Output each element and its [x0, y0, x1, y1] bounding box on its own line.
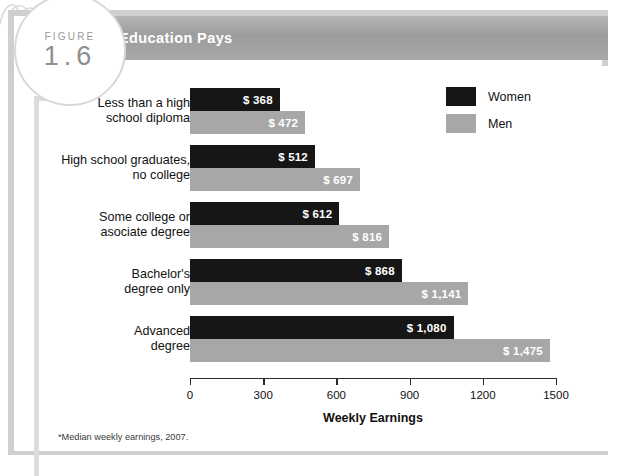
- x-axis-tick-label: 300: [254, 389, 273, 401]
- bar-women: $ 512: [190, 145, 315, 168]
- x-axis-tick-label: 900: [400, 389, 419, 401]
- bar-row: Some college or asociate degree$ 612$ 81…: [14, 202, 608, 248]
- x-axis-tick-label: 1200: [470, 389, 496, 401]
- category-label: Advanced degree: [0, 324, 190, 354]
- bar-women: $ 612: [190, 202, 339, 225]
- x-axis-tick-label: 600: [327, 389, 346, 401]
- x-axis-tick: [410, 378, 411, 385]
- figure-title: Education Pays: [119, 30, 233, 46]
- bar-row: Advanced degree$ 1,080$ 1,475: [14, 316, 608, 362]
- x-axis-tick-label: 0: [187, 389, 193, 401]
- chart-area: Women Men Less than a high school diplom…: [14, 66, 608, 451]
- figure-number: 1.6: [44, 43, 97, 70]
- x-axis-tick-label: 1500: [543, 389, 569, 401]
- bar-pair: $ 368$ 472: [190, 88, 305, 134]
- bar-men: $ 816: [190, 225, 389, 248]
- x-axis-tick: [336, 378, 337, 385]
- bar-value-label: $ 512: [278, 151, 308, 163]
- bar-value-label: $ 816: [352, 231, 382, 243]
- bar-row: Bachelor's degree only$ 868$ 1,141: [14, 259, 608, 305]
- figure-word-label: FIGURE: [45, 31, 96, 42]
- bar-pair: $ 1,080$ 1,475: [190, 316, 550, 362]
- x-axis-title: Weekly Earnings: [190, 411, 556, 425]
- chart-footnote: *Median weekly earnings, 2007.: [58, 432, 188, 442]
- x-axis-tick: [190, 378, 191, 385]
- bar-value-label: $ 1,475: [503, 345, 543, 357]
- x-axis-tick: [556, 378, 557, 385]
- bar-pair: $ 512$ 697: [190, 145, 360, 191]
- bar-value-label: $ 697: [323, 174, 353, 186]
- bar-women: $ 868: [190, 259, 402, 282]
- x-axis-line: [190, 378, 556, 379]
- bar-women: $ 368: [190, 88, 280, 111]
- figure-page: Education Pays FIGURE 1.6 Women Men Less…: [0, 0, 621, 476]
- bar-pair: $ 612$ 816: [190, 202, 389, 248]
- bar-row: High school graduates, no college$ 512$ …: [14, 145, 608, 191]
- x-axis-tick: [263, 378, 264, 385]
- category-label: Some college or asociate degree: [0, 210, 190, 240]
- category-label: Bachelor's degree only: [0, 267, 190, 297]
- category-label: Less than a high school diploma: [0, 96, 190, 126]
- bar-value-label: $ 1,080: [407, 322, 447, 334]
- bar-value-label: $ 368: [243, 94, 273, 106]
- bar-rows: Less than a high school diploma$ 368$ 47…: [14, 66, 608, 386]
- x-axis: 030060090012001500: [190, 378, 556, 379]
- bar-value-label: $ 1,141: [422, 288, 462, 300]
- figure-title-band: Education Pays: [92, 16, 608, 60]
- bar-value-label: $ 612: [303, 208, 333, 220]
- bar-pair: $ 868$ 1,141: [190, 259, 468, 305]
- figure-tail-rule: [34, 96, 39, 476]
- bar-value-label: $ 472: [268, 117, 298, 129]
- bar-men: $ 472: [190, 111, 305, 134]
- bar-men: $ 1,475: [190, 339, 550, 362]
- bar-men: $ 1,141: [190, 282, 468, 305]
- bar-men: $ 697: [190, 168, 360, 191]
- bar-women: $ 1,080: [190, 316, 454, 339]
- category-label: High school graduates, no college: [0, 153, 190, 183]
- bar-value-label: $ 868: [365, 265, 395, 277]
- x-axis-tick: [483, 378, 484, 385]
